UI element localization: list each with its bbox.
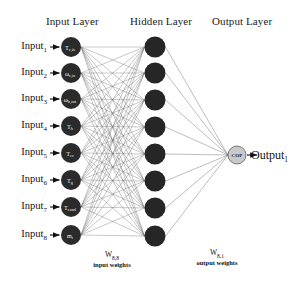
hidden-node <box>145 171 166 192</box>
input-label-7: Input7 <box>3 200 47 214</box>
input-label-text: Input <box>21 146 43 157</box>
input-label-text: Input <box>21 228 43 239</box>
output-node-label: COP <box>231 153 242 158</box>
edge-input-hidden <box>81 100 145 235</box>
input-label-sub: 3 <box>44 98 48 106</box>
input-label-text: Input <box>21 119 43 130</box>
input-label-text: Input <box>21 40 43 51</box>
input-to-hidden-edges <box>81 47 145 236</box>
input-weights-symbol-sub: 8,8 <box>112 255 119 261</box>
input-weights-symbol: W8,8 <box>82 250 142 261</box>
input-label-text: Input <box>21 200 43 211</box>
input-label-4: Input4 <box>3 119 47 133</box>
hidden-node <box>145 63 166 84</box>
edge-hidden-output <box>166 73 229 155</box>
edge-input-hidden <box>81 154 145 235</box>
input-weights-caption: W8,8 input weights <box>82 250 142 268</box>
edge-input-hidden <box>81 154 145 207</box>
output-label-text: Output <box>251 148 284 162</box>
input-nodes: Tc,inωc,inωh,outThTevTgTcondmr <box>61 37 81 245</box>
hidden-node <box>145 144 166 165</box>
hidden-layer-title: Hidden Layer <box>130 15 192 27</box>
input-label-8: Input8 <box>3 228 47 242</box>
input-label-sub: 8 <box>44 234 48 242</box>
edge-input-hidden <box>81 181 145 207</box>
output-weights-text: output weights <box>182 259 252 266</box>
edge-input-hidden <box>81 235 145 236</box>
output-label: Output1 <box>251 148 288 164</box>
input-label-sub: 6 <box>44 179 48 187</box>
hidden-node <box>145 37 166 58</box>
input-label-2: Input2 <box>3 66 47 80</box>
input-label-text: Input <box>21 66 43 77</box>
input-label-5: Input5 <box>3 146 47 160</box>
output-layer-title: Output Layer <box>212 15 272 27</box>
input-label-text: Input <box>21 173 43 184</box>
hidden-nodes <box>145 37 166 247</box>
input-label-sub: 7 <box>44 206 48 214</box>
output-weights-symbol-sub: 8,1 <box>217 253 224 259</box>
edge-input-hidden <box>81 208 145 235</box>
hidden-node <box>145 90 166 111</box>
edge-hidden-output <box>166 155 229 181</box>
edge-hidden-output <box>166 100 229 155</box>
edge-hidden-output <box>166 155 229 236</box>
network-diagram: Tc,inωc,inωh,outThTevTgTcondmr COP Input… <box>0 0 302 290</box>
input-label-3: Input3 <box>3 92 47 106</box>
input-arrows <box>50 47 60 235</box>
input-label-text: Input <box>21 92 43 103</box>
input-label-sub: 2 <box>44 72 48 80</box>
edge-hidden-output <box>166 154 229 155</box>
edge-hidden-output <box>166 155 229 208</box>
hidden-node <box>145 198 166 219</box>
edge-hidden-output <box>166 127 229 155</box>
input-label-sub: 4 <box>44 125 48 133</box>
hidden-node <box>145 226 166 247</box>
input-label-sub: 1 <box>44 46 48 54</box>
input-weights-text: input weights <box>82 261 142 268</box>
output-weights-symbol: W8,1 <box>182 248 252 259</box>
input-label-6: Input6 <box>3 173 47 187</box>
input-label-sub: 5 <box>44 152 48 160</box>
hidden-to-output-edges <box>166 47 229 236</box>
output-weights-caption: W8,1 output weights <box>182 248 252 266</box>
edge-hidden-output <box>166 47 229 155</box>
hidden-node <box>145 117 166 138</box>
output-node: COP <box>228 146 246 164</box>
output-label-sub: 1 <box>284 155 288 164</box>
input-label-1: Input1 <box>3 40 47 54</box>
input-layer-title: Input Layer <box>46 15 99 27</box>
